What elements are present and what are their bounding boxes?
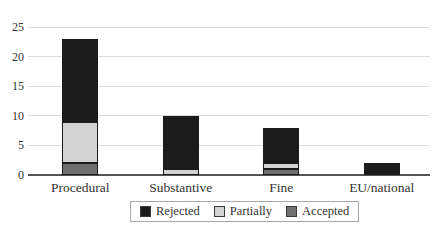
x-label-procedural: Procedural xyxy=(25,180,135,196)
bar-fine xyxy=(263,128,299,175)
y-tick-label-0: 0 xyxy=(0,169,24,181)
segment-partially-1 xyxy=(163,169,199,175)
legend-item-accepted: Accepted xyxy=(286,204,349,219)
x-label-eu-national: EU/national xyxy=(327,180,437,196)
legend-item-partially: Partially xyxy=(214,204,272,219)
legend-label-rejected: Rejected xyxy=(156,204,200,219)
segment-rejected-0 xyxy=(62,39,98,122)
legend-label-accepted: Accepted xyxy=(302,204,349,219)
segment-partially-0 xyxy=(62,122,98,163)
legend-swatch-accepted xyxy=(286,206,297,217)
segment-rejected-3 xyxy=(364,163,400,175)
segment-accepted-2 xyxy=(263,169,299,175)
bar-substantive xyxy=(163,116,199,175)
legend-item-rejected: Rejected xyxy=(140,204,200,219)
x-label-substantive: Substantive xyxy=(126,180,236,196)
segment-rejected-1 xyxy=(163,116,199,169)
legend-swatch-partially xyxy=(214,206,225,217)
y-tick-label-10: 10 xyxy=(0,110,24,122)
segment-rejected-2 xyxy=(263,128,299,164)
plot-area xyxy=(28,27,430,175)
legend-swatch-rejected xyxy=(140,206,151,217)
y-tick-label-15: 15 xyxy=(0,80,24,92)
stacked-bar-chart: 0510152025 ProceduralSubstantiveFineEU/n… xyxy=(0,0,442,231)
y-tick-label-25: 25 xyxy=(0,21,24,33)
x-label-fine: Fine xyxy=(226,180,336,196)
y-tick-label-20: 20 xyxy=(0,51,24,63)
segment-accepted-0 xyxy=(62,163,98,175)
y-tick-label-5: 5 xyxy=(0,139,24,151)
gridline-y-25 xyxy=(28,27,430,28)
legend-label-partially: Partially xyxy=(230,204,272,219)
bar-procedural xyxy=(62,39,98,175)
legend-box: RejectedPartiallyAccepted xyxy=(130,201,359,222)
bar-eu-national xyxy=(364,163,400,175)
